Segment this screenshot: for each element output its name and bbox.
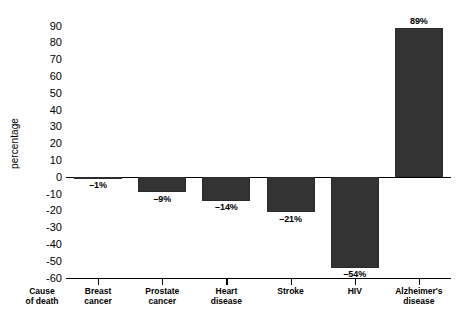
x-axis-tick [162,279,163,285]
bar [395,28,443,178]
bar-value-label: –1% [68,180,128,190]
bar-chart: percentage 9080706050403020100-10-20-30-… [0,0,460,323]
bar [202,177,250,201]
y-axis-tick-label: -60 [46,273,62,284]
bar-value-label: –14% [196,202,256,212]
x-axis-tick [419,279,420,285]
y-axis-tick-label: -20 [46,205,62,216]
y-axis-tick-label: 40 [50,105,62,116]
x-axis-category-label-line: disease [377,297,460,307]
y-axis-tick-label: 20 [50,138,62,149]
x-axis-tick [291,279,292,285]
bar-value-label: –21% [261,214,321,224]
bar-value-label: –9% [132,194,192,204]
zero-baseline [66,177,451,178]
y-axis-tick-label: -40 [46,239,62,250]
x-axis-tick [355,279,356,285]
y-axis-tick-labels: 9080706050403020100-10-20-30-40-50-60 [28,0,62,323]
plot-area: –1%–9%–14%–21%–54%89% [66,26,451,278]
y-axis-tick-label: 10 [50,155,62,166]
x-axis-tick [226,279,227,285]
x-axis-tick [98,279,99,285]
y-axis-tick-label: 80 [50,37,62,48]
bar [74,177,122,179]
bar [138,177,186,192]
bar [331,177,379,268]
bar-value-label: 89% [389,16,449,26]
y-axis-tick-label: 90 [50,21,62,32]
y-axis-tick-label: 30 [50,121,62,132]
y-axis-tick-label: -50 [46,256,62,267]
y-axis-tick-label: 50 [50,88,62,99]
x-axis-category-label: Alzheimer'sdisease [377,287,460,306]
x-axis-category-label-line: disease [184,297,268,307]
x-axis-line [66,278,451,279]
y-axis-tick-label: 70 [50,54,62,65]
y-axis-tick-label: 0 [56,172,62,183]
y-axis-tick-label: 60 [50,71,62,82]
bar [267,177,315,212]
y-axis-tick-label: -10 [46,189,62,200]
y-axis-title: percentage [9,104,20,184]
y-axis-tick-label: -30 [46,222,62,233]
